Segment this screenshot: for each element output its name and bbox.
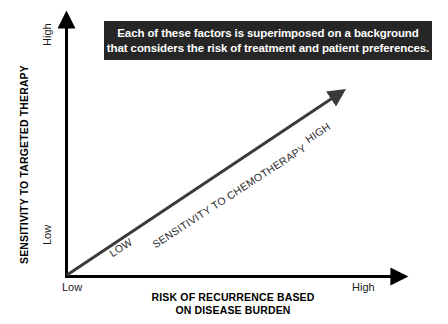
y-axis-tick-low: Low <box>41 225 53 245</box>
y-axis-tick-high: High <box>41 23 53 46</box>
y-axis-title: SENSITIVITY TO TARGETED THERAPY <box>18 65 30 264</box>
x-axis-title-line-1: RISK OF RECURRENCE BASED <box>66 291 400 304</box>
chart-figure: Each of these factors is superimposed on… <box>0 0 448 324</box>
callout-line-2: that considers the risk of treatment and… <box>107 41 429 56</box>
callout-banner: Each of these factors is superimposed on… <box>104 21 432 60</box>
x-axis-title: RISK OF RECURRENCE BASED ON DISEASE BURD… <box>66 291 400 317</box>
callout-line-1: Each of these factors is superimposed on… <box>117 26 418 41</box>
x-axis-title-line-2: ON DISEASE BURDEN <box>66 304 400 317</box>
